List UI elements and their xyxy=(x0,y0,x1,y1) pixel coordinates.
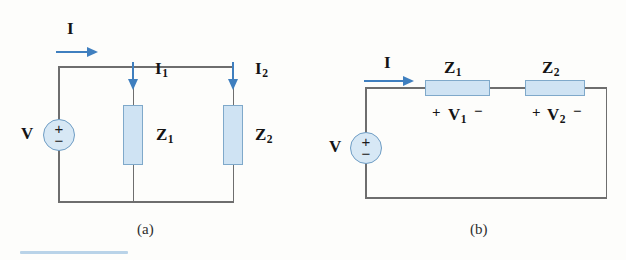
circuit-b-top-wire-right xyxy=(584,87,607,89)
impedance-label-b-z2: Z2 xyxy=(542,58,560,79)
current-label-a-i1: I1 xyxy=(155,59,168,80)
impedance-b-z1 xyxy=(425,80,490,96)
figure-canvas: + − V I Z1 I1 Z2 I2 (a) xyxy=(0,0,626,260)
current-label-b-total: I xyxy=(384,53,391,73)
voltage-label-b-v1: V1 xyxy=(448,105,467,126)
polarity-plus-b-v2: + xyxy=(532,104,541,121)
current-arrow-b-total xyxy=(364,79,416,82)
circuit-b-bottom-wire xyxy=(365,197,607,199)
impedance-label-a-z1: Z1 xyxy=(156,125,174,146)
caption-b: (b) xyxy=(470,221,488,238)
impedance-b-z2 xyxy=(525,80,585,96)
voltage-source-a: + − xyxy=(43,119,75,151)
circuit-b-top-wire-middle xyxy=(489,87,526,89)
source-minus-sign-b: − xyxy=(351,147,381,160)
caption-a: (a) xyxy=(137,221,154,238)
circuit-a-top-wire xyxy=(58,66,234,68)
voltage-label-b-v2: V2 xyxy=(547,105,566,126)
current-arrow-a-total xyxy=(56,50,99,53)
polarity-minus-b-v1: − xyxy=(474,103,483,120)
current-arrow-a-i1 xyxy=(131,62,134,90)
circuit-a-bottom-wire xyxy=(58,201,234,203)
impedance-a-z2 xyxy=(223,105,243,165)
impedance-a-z1 xyxy=(123,105,143,165)
voltage-source-b: + − xyxy=(350,132,382,164)
voltage-source-label-a: V xyxy=(21,124,33,144)
voltage-source-label-b: V xyxy=(329,137,341,157)
current-label-a-i2: I2 xyxy=(255,59,268,80)
impedance-label-a-z2: Z2 xyxy=(255,125,273,146)
current-label-a-total: I xyxy=(67,19,74,39)
circuit-b-top-wire-left xyxy=(365,87,426,89)
source-minus-sign-a: − xyxy=(44,134,74,147)
circuit-b-right-wire xyxy=(606,87,608,198)
page-rule xyxy=(20,251,128,254)
polarity-minus-b-v2: − xyxy=(573,103,582,120)
current-arrow-a-i2 xyxy=(231,62,234,90)
polarity-plus-b-v1: + xyxy=(432,104,441,121)
impedance-label-b-z1: Z1 xyxy=(444,58,462,79)
